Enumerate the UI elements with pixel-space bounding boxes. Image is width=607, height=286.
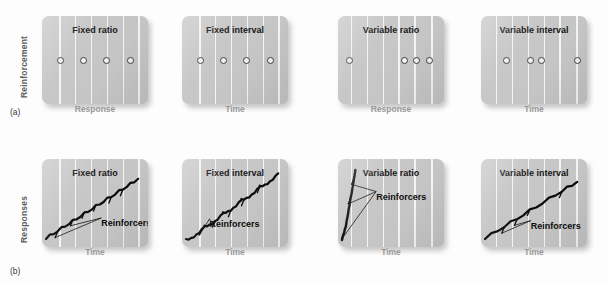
cumulative-record-curve [42, 159, 148, 247]
x-axis-label: Time [481, 104, 587, 114]
y-axis-label: Reinforcement [19, 36, 29, 98]
panel-title: Fixed interval [182, 25, 288, 35]
y-axis-label: Responses [19, 196, 29, 243]
x-axis-label: Time [481, 247, 587, 257]
reinforcers-annotation: Reinforcers [210, 219, 260, 229]
panel-fixed-ratio-a: Fixed ratio [42, 16, 148, 104]
reinforcer-marker [401, 57, 408, 64]
x-axis-label: Time [182, 247, 288, 257]
cumulative-record-curve [481, 159, 587, 247]
reinforcers-annotation: Reinforcers [376, 192, 426, 202]
row-tag-a: (a) [10, 107, 20, 117]
panel-variable-ratio-a: Variable ratio [338, 16, 444, 104]
panel-variable-interval-a: Variable interval [481, 16, 587, 104]
cumulative-record-curve [182, 159, 288, 247]
cumulative-record-curve [338, 159, 444, 247]
x-axis-label: Response [338, 104, 444, 114]
panel-fixed-ratio-b: Fixed ratioReinforcers [42, 159, 148, 247]
panel-title: Variable ratio [338, 25, 444, 35]
reinforcement-schedules-figure: (a)ReinforcementFixed ratioResponseFixed… [0, 0, 607, 286]
panel-title: Fixed ratio [42, 25, 148, 35]
reinforcer-leader-line [515, 221, 531, 226]
x-axis-label: Time [182, 104, 288, 114]
x-axis-label: Time [338, 247, 444, 257]
reinforcer-leader-line [352, 184, 377, 191]
panel-fixed-interval-b: Fixed intervalReinforcers [182, 159, 288, 247]
reinforcers-annotation: Reinforcers [531, 221, 581, 231]
panel-variable-interval-b: Variable intervalReinforcers [481, 159, 587, 247]
x-axis-label: Response [42, 104, 148, 114]
reinforcers-annotation: Reinforcers [101, 218, 148, 228]
panel-fixed-interval-a: Fixed interval [182, 16, 288, 104]
response-curve-line [186, 173, 278, 239]
response-curve-line [46, 179, 138, 239]
panel-title: Variable interval [481, 25, 587, 35]
x-axis-label: Time [42, 247, 148, 257]
row-tag-b: (b) [10, 266, 20, 276]
reinforcer-marker [527, 57, 534, 64]
panel-variable-ratio-b: Variable ratioReinforcers [338, 159, 444, 247]
